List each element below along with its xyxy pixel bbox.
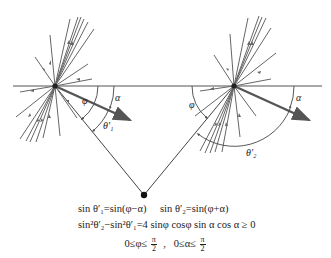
right-alpha-arc xyxy=(290,86,294,108)
left-phi-label: φ xyxy=(82,95,88,106)
left-ray-bundle xyxy=(16,17,94,142)
right-phi-label: φ xyxy=(189,99,195,110)
equation-line-3: 0≤φ≤ π2 , 0≤α≤ π2 xyxy=(0,236,331,253)
fraction-pi-over-2: π2 xyxy=(200,236,206,253)
fraction-pi-over-2: π2 xyxy=(151,236,157,253)
eq-alpha-range: 0≤α≤ xyxy=(174,238,196,249)
left-alpha-label: α xyxy=(115,92,121,103)
left-scattering-point xyxy=(52,83,57,88)
left-theta1-label: θ′₁ xyxy=(103,120,114,131)
left-alpha-arc xyxy=(110,86,114,108)
eq-sin-theta1: sin θ′₁=sin(φ−α) xyxy=(78,203,147,214)
eq-sin-squared-difference: sin²θ′₂−sin²θ′₁=4 sinφ cosφ sin α cos α … xyxy=(78,219,256,230)
right-scattering-point xyxy=(231,83,236,88)
right-alpha-label: α xyxy=(296,92,302,103)
eq-separator: , xyxy=(161,238,172,249)
eq-phi-range: 0≤φ≤ xyxy=(124,238,147,249)
right-theta2-label: θ′₂ xyxy=(246,147,257,158)
eq-sin-theta2: sin θ′₂=sin(φ+α) xyxy=(160,203,229,214)
vertex-point xyxy=(141,192,147,198)
